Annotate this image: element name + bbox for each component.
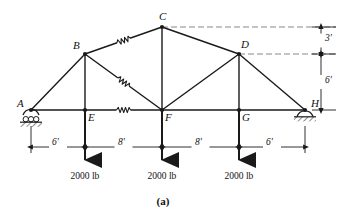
- joint-label-D: D: [241, 39, 249, 50]
- joint-dot-B: [83, 52, 87, 56]
- joint-label-C: C: [159, 11, 166, 22]
- horizontal-dimension-label-2: 8': [195, 138, 202, 148]
- truss-figure: ABCDEFGH2000 lb2000 lb2000 lb6'8'8'6'3'6…: [0, 0, 343, 220]
- joint-label-B: B: [73, 40, 80, 51]
- member-mark-BC: [116, 36, 131, 46]
- member-DF: [162, 54, 239, 110]
- joint-label-E: E: [88, 112, 95, 123]
- member-CD: [162, 27, 239, 54]
- vertical-dimension-label-1: 6': [325, 76, 332, 86]
- joint-label-G: G: [242, 112, 250, 123]
- extension-line-group: [162, 27, 336, 54]
- member-AB: [31, 54, 85, 110]
- joint-dot-D: [237, 52, 241, 56]
- joint-label-A: A: [17, 98, 24, 109]
- joint-label-F: F: [165, 112, 172, 123]
- support-pin-H: [294, 111, 316, 122]
- joint-dot-H: [303, 108, 307, 112]
- vertical-dimension-label-0: 3': [325, 34, 332, 44]
- joint-label-H: H: [311, 98, 319, 109]
- figure-caption: (a): [157, 196, 170, 207]
- joint-dot-C: [160, 25, 164, 29]
- horizontal-dimension-label-0: 6': [52, 138, 59, 148]
- member-DH: [239, 54, 305, 110]
- member-mark-group: [116, 36, 131, 113]
- horizontal-dimension-label-1: 8': [118, 138, 125, 148]
- load-label-F: 2000 lb: [132, 172, 192, 182]
- load-label-G: 2000 lb: [209, 172, 269, 182]
- load-label-E: 2000 lb: [55, 172, 115, 182]
- horizontal-dimension-label-3: 6': [266, 138, 273, 148]
- horizontal-dimension-group: [31, 126, 305, 154]
- member-mark-EF: [117, 107, 131, 112]
- member-mark-BF: [116, 76, 130, 88]
- truss-drawing: [0, 0, 343, 220]
- joint-dot-A: [29, 108, 33, 112]
